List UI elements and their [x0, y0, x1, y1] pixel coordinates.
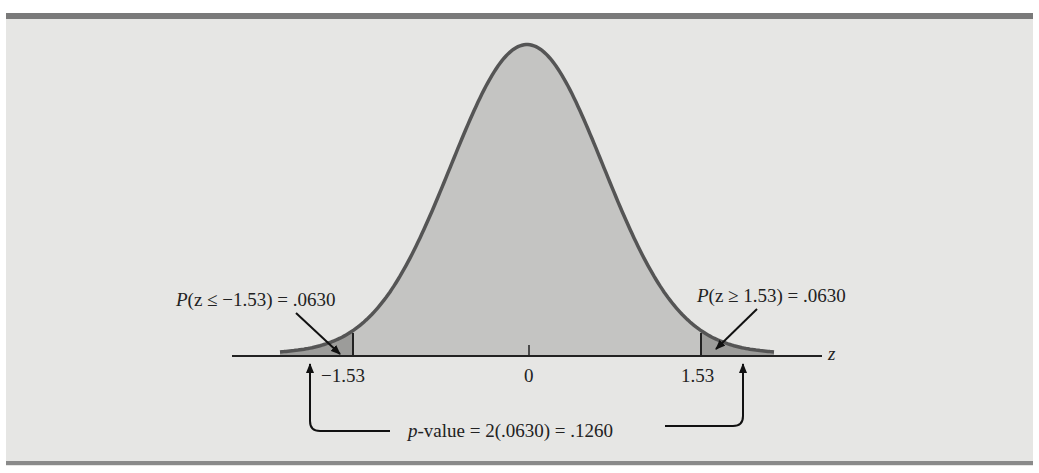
left-probability-label: P(z ≤ −1.53) = .0630 [175, 289, 336, 311]
tick-label-pos: 1.53 [681, 365, 714, 386]
tick-label-zero: 0 [524, 365, 534, 386]
right-probability-label: P(z ≥ 1.53) = .0630 [696, 285, 846, 307]
right-pointer-arrow [716, 309, 757, 349]
axis-label-z: z [827, 343, 836, 364]
tick-label-neg: −1.53 [321, 365, 365, 386]
curve-area [353, 45, 701, 357]
p-value-label: p-value = 2(.0630) = .1260 [406, 420, 613, 442]
normal-curve-diagram: −1.53 0 1.53 z P(z ≤ −1.53) = .0630 P(z … [0, 0, 1039, 473]
